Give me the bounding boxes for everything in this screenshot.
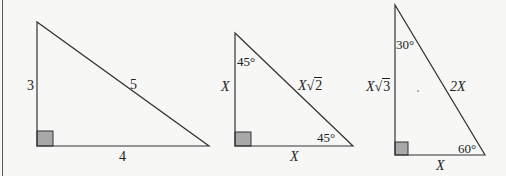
sqrt-symbol: √3 — [375, 80, 391, 94]
triangle-30-60-90 — [395, 5, 485, 155]
angle-label-bottom-right: 45° — [317, 131, 335, 144]
stray-dot — [417, 90, 419, 92]
side-label-vertical: 3 — [27, 79, 34, 93]
angle-label-bottom-right: 60° — [458, 142, 476, 155]
sqrt-radicand: 2 — [314, 77, 322, 93]
vertical-variable: X — [366, 79, 375, 94]
side-label-hypotenuse: 2X — [450, 80, 466, 94]
triangles-figure — [0, 0, 506, 176]
right-angle-marker — [37, 131, 53, 146]
triangle-outline — [37, 22, 209, 146]
side-label-vertical: X√3 — [366, 80, 390, 94]
triangle-45-45-90 — [235, 33, 353, 146]
hypotenuse-variable: X — [298, 78, 307, 93]
side-label-vertical: X — [221, 80, 230, 94]
right-angle-marker — [395, 142, 408, 155]
triangle-outline — [235, 33, 353, 146]
side-label-base: X — [290, 150, 299, 164]
sqrt-radicand: 3 — [382, 78, 390, 94]
angle-label-top: 45° — [237, 55, 255, 68]
sqrt-symbol: √2 — [307, 79, 323, 93]
side-label-hypotenuse: 5 — [130, 78, 137, 92]
side-label-hypotenuse: X√2 — [298, 79, 322, 93]
angle-label-top: 30° — [396, 38, 414, 51]
right-angle-marker — [235, 132, 251, 146]
triangle-3-4-5 — [37, 22, 209, 146]
triangle-outline — [395, 5, 485, 155]
side-label-base: X — [436, 159, 445, 173]
side-label-base: 4 — [119, 150, 126, 164]
